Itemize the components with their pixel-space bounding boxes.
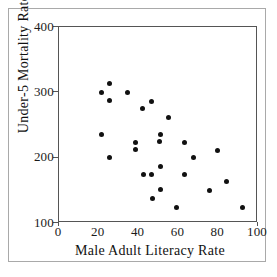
scatter-point [174, 205, 179, 210]
x-axis-tick-label: 80 [197, 225, 237, 239]
scatter-point [182, 140, 187, 145]
scatter-plot-figure: 100200300400 020406080100 Male Adult Lit… [0, 0, 277, 277]
x-axis-tick-labels: 020406080100 [58, 225, 257, 241]
scatter-point [107, 98, 112, 103]
scatter-point [215, 148, 220, 153]
scatter-point [240, 205, 245, 210]
y-axis-title-wrapper: Under-5 Mortality Rate [16, 0, 34, 154]
scatter-point [149, 99, 154, 104]
x-axis-tick-label: 40 [118, 225, 158, 239]
scatter-point [224, 179, 229, 184]
y-axis-title: Under-5 Mortality Rate [16, 0, 32, 154]
scatter-point [133, 147, 138, 152]
x-axis-tick-label: 60 [157, 225, 197, 239]
scatter-point [182, 172, 187, 177]
scatter-point [158, 132, 163, 137]
scatter-point [149, 172, 154, 177]
scatter-point [107, 81, 112, 86]
scatter-point [166, 115, 171, 120]
scatter-point [125, 90, 130, 95]
scatter-point [157, 139, 162, 144]
scatter-points-layer [59, 27, 256, 221]
scatter-point [133, 140, 138, 145]
scatter-point [191, 155, 196, 160]
plot-area-frame [58, 26, 257, 222]
y-axis-tick-marks [58, 26, 59, 222]
x-axis-tick-label: 100 [237, 225, 277, 239]
scatter-point [99, 90, 104, 95]
scatter-point [158, 187, 163, 192]
x-axis-title: Male Adult Literacy Rate [30, 243, 270, 259]
scatter-point [207, 188, 212, 193]
scatter-point [107, 155, 112, 160]
scatter-point [150, 196, 155, 201]
x-axis-tick-label: 0 [38, 225, 78, 239]
scatter-point [140, 106, 145, 111]
x-axis-tick-label: 20 [78, 225, 118, 239]
scatter-point [141, 172, 146, 177]
scatter-point [158, 164, 163, 169]
scatter-point [99, 132, 104, 137]
